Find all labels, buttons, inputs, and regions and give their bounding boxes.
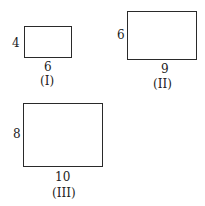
rectangle-iii [23, 103, 103, 167]
rectangle-i-caption: (I) [40, 75, 54, 87]
rectangle-ii [127, 11, 197, 60]
rectangle-iii-height-label: 8 [13, 128, 21, 140]
rectangle-iii-caption: (III) [52, 187, 76, 199]
rectangle-ii-height-label: 6 [117, 29, 125, 41]
rectangle-i [24, 26, 72, 58]
rectangle-i-width-label: 6 [44, 61, 52, 73]
rectangle-iii-width-label: 10 [55, 171, 70, 183]
rectangle-i-height-label: 4 [12, 37, 20, 49]
rectangle-ii-width-label: 9 [161, 63, 169, 75]
rectangle-ii-caption: (II) [153, 78, 172, 90]
